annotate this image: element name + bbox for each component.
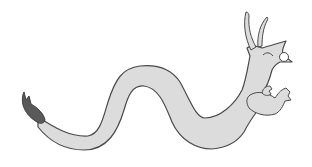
right-horn xyxy=(258,17,268,47)
tail-tuft xyxy=(22,92,45,123)
dragon-illustration xyxy=(0,0,312,167)
pearl xyxy=(280,53,289,62)
left-horn xyxy=(245,12,256,50)
